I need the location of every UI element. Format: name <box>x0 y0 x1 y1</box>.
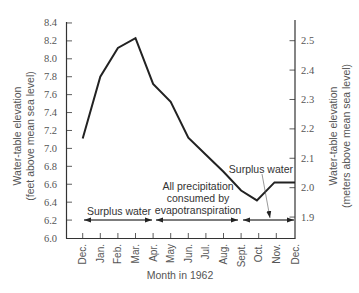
evapotranspiration-label-line1: All precipitation <box>162 180 233 192</box>
right-axis-title-line1: Water-table elevation <box>327 86 339 185</box>
right-tick-label: 2.1 <box>301 153 314 164</box>
left-tick-label: 8.0 <box>44 53 57 64</box>
month-label: Jun. <box>183 244 194 263</box>
month-label: Apr. <box>148 244 159 262</box>
water-table-chart: 6.06.26.46.66.87.07.27.47.67.88.08.28.4 … <box>0 0 359 293</box>
left-tick-label: 8.4 <box>44 17 58 28</box>
right-axis-title-line2: (meters above mean sea level) <box>340 64 352 208</box>
month-label: Dec. <box>290 244 301 265</box>
month-label: Feb. <box>112 244 123 264</box>
month-label: Sept. <box>236 244 247 267</box>
left-tick-label: 7.6 <box>44 89 57 100</box>
right-tick-label: 2.4 <box>301 65 315 76</box>
left-axis-title-line2: (feet above mean sea level) <box>24 71 36 201</box>
left-tick-label: 7.8 <box>44 71 57 82</box>
x-axis-title: Month in 1962 <box>147 269 214 281</box>
surplus-callout-line <box>262 174 270 218</box>
month-label: Nov. <box>271 244 282 264</box>
left-tick-label: 6.6 <box>44 179 57 190</box>
month-label: Jan. <box>95 244 106 263</box>
evapotranspiration-label-line3: evapotranspiration <box>155 204 242 216</box>
left-tick-label: 7.0 <box>44 143 57 154</box>
month-label: Jul. <box>200 244 211 260</box>
month-label: Aug. <box>218 244 229 265</box>
right-tick-label: 2.3 <box>301 94 314 105</box>
left-axis-title-line1: Water-table elevation <box>11 86 23 185</box>
left-tick-label: 8.2 <box>44 35 57 46</box>
surplus-water-label-left: Surplus water <box>87 205 152 217</box>
right-tick-label: 2.2 <box>301 123 314 134</box>
month-label: Oct. <box>253 244 264 262</box>
water-table-line <box>83 38 295 200</box>
right-tick-label: 1.9 <box>301 212 314 223</box>
left-tick-label: 6.4 <box>44 197 58 208</box>
right-tick-label: 2.0 <box>301 182 314 193</box>
left-tick-label: 6.8 <box>44 161 57 172</box>
right-tick-label: 2.5 <box>301 35 314 46</box>
left-axis-ticks: 6.06.26.46.66.87.07.27.47.67.88.08.28.4 <box>44 17 72 243</box>
evapotranspiration-label-line2: consumed by <box>167 192 230 204</box>
right-axis-ticks: 1.92.02.12.22.32.42.5 <box>290 35 315 222</box>
left-tick-label: 6.2 <box>44 215 57 226</box>
month-label: Dec. <box>77 244 88 265</box>
month-label: Mar. <box>130 244 141 263</box>
left-tick-label: 7.2 <box>44 125 57 136</box>
surplus-water-label-right: Surplus water <box>229 163 294 175</box>
left-tick-label: 6.0 <box>44 233 57 244</box>
left-tick-label: 7.4 <box>44 107 58 118</box>
month-label: May <box>165 244 176 263</box>
